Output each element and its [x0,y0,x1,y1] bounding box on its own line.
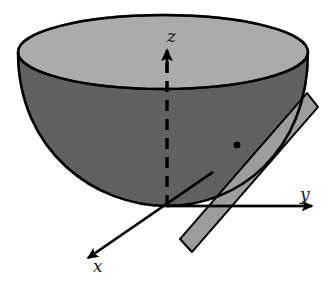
y-axis-label: y [300,186,310,203]
paraboloid-surface [18,15,308,206]
z-axis-label: z [167,28,176,45]
figure-canvas: z y x [0,0,335,292]
x-axis-label: x [93,258,103,275]
tangent-point-dot [234,142,241,149]
